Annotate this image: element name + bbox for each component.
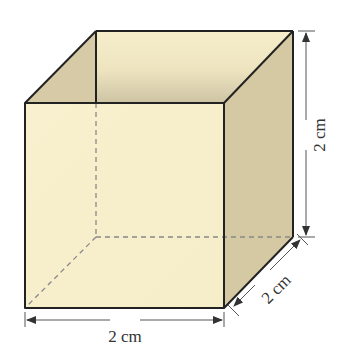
cube-diagram: 2 cm 2 cm 2 cm: [0, 0, 348, 359]
height-label: 2 cm: [310, 118, 329, 152]
width-dimension: [25, 312, 224, 327]
width-label: 2 cm: [108, 327, 142, 346]
depth-label: 2 cm: [258, 271, 295, 308]
